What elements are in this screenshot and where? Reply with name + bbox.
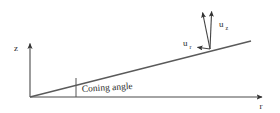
figure-background [0, 0, 280, 113]
u-r-label: u [183, 38, 188, 48]
u-r-subscript: r [190, 44, 192, 50]
u-z-label: u [219, 19, 224, 29]
u-z-subscript: z [226, 25, 229, 31]
r-axis-label: r [260, 101, 263, 111]
figure-canvas: z r u z u r Coning angle [0, 0, 280, 113]
coning-angle-diagram: z r u z u r Coning angle [0, 0, 280, 113]
z-axis-label: z [14, 43, 18, 53]
